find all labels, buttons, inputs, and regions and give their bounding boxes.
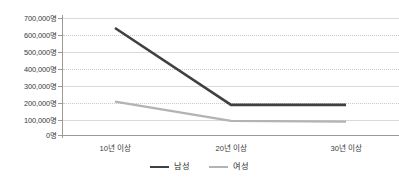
- line-chart: 700,000명 600,000명 500,000명 400,000명 300,…: [0, 0, 399, 187]
- y-tick-label-700000: 700,000명: [1, 15, 57, 22]
- legend-item-female: 여성: [209, 163, 249, 171]
- x-tick-label-1: 20년 이상: [216, 142, 247, 153]
- gridline-700000: [63, 18, 399, 19]
- y-tick-label-200000: 200,000명: [1, 100, 57, 107]
- chart-legend: 남성 여성: [0, 163, 399, 171]
- legend-swatch-female-icon: [209, 166, 228, 168]
- x-tick-label-0: 10년 이상: [100, 142, 131, 153]
- y-tick-label-600000: 600,000명: [1, 32, 57, 39]
- legend-item-male: 남성: [150, 163, 190, 171]
- gridline-300000: [63, 86, 399, 87]
- y-tick-label-100000: 100,000명: [1, 117, 57, 124]
- y-tick-label-300000: 300,000명: [1, 83, 57, 90]
- y-axis-line: [62, 15, 63, 138]
- legend-label-male: 남성: [174, 163, 190, 171]
- y-axis-labels: 700,000명 600,000명 500,000명 400,000명 300,…: [0, 0, 57, 187]
- y-tick-label-0: 0명: [1, 132, 57, 139]
- gridline-100000: [63, 120, 399, 121]
- y-tick-label-500000: 500,000명: [1, 49, 57, 56]
- gridline-500000: [63, 52, 399, 53]
- x-axis-line: [62, 135, 399, 136]
- legend-label-female: 여성: [233, 163, 249, 171]
- plot-area: [63, 18, 399, 135]
- gridline-600000: [63, 35, 399, 36]
- gridline-200000: [63, 103, 399, 104]
- y-tick-label-400000: 400,000명: [1, 66, 57, 73]
- gridline-400000: [63, 69, 399, 70]
- legend-swatch-male-icon: [150, 166, 169, 168]
- x-tick-label-2: 30년 이상: [331, 142, 362, 153]
